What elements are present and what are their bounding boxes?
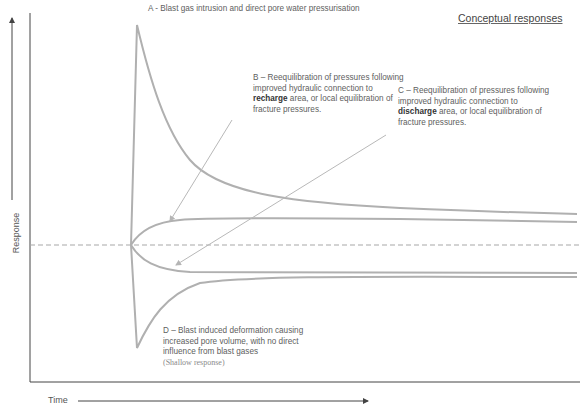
- annotation-b-line1: B – Reequilibration of pressures followi…: [253, 73, 453, 84]
- annotation-d-line3: influence from blast gases: [163, 347, 363, 358]
- annotation-c-line3: discharge area, or local equilibration o…: [398, 107, 584, 118]
- annotation-c-bold: discharge: [398, 107, 437, 116]
- curve-b: [131, 218, 577, 245]
- annotation-c-line1: C – Reequilibration of pressures followi…: [398, 86, 584, 97]
- annotation-a-text: A - Blast gas intrusion and direct pore …: [148, 4, 360, 13]
- annotation-c-line3-rest: area, or local equilibration of: [437, 107, 542, 116]
- curve-c: [131, 245, 577, 273]
- y-axis-label: Response: [11, 203, 21, 263]
- annotation-b-line3-rest: area, or local equilibration of: [288, 94, 393, 103]
- curve-a: [131, 25, 577, 245]
- annotation-c: C – Reequilibration of pressures followi…: [398, 86, 584, 128]
- annotation-d-line2: increased pore volume, with no direct: [163, 337, 363, 348]
- annotation-c-line4: fracture pressures.: [398, 118, 584, 129]
- annotation-d-line4: (Shallow response): [163, 358, 363, 369]
- arrow-b-pointer: [170, 120, 232, 221]
- annotation-d-line1: D – Blast induced deformation causing: [163, 326, 363, 337]
- annotation-d: D – Blast induced deformation causing in…: [163, 326, 363, 368]
- diagram-title: Conceptual responses: [458, 12, 562, 24]
- annotation-c-line2: improved hydraulic connection to: [398, 97, 584, 108]
- annotation-b-bold: recharge: [253, 94, 288, 103]
- x-axis-label: Time: [48, 395, 68, 404]
- annotation-a: A - Blast gas intrusion and direct pore …: [148, 4, 360, 15]
